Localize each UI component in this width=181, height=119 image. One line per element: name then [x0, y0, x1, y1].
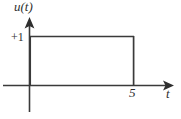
- y-axis-label: u(t): [14, 0, 33, 13]
- plot-canvas: [0, 0, 181, 119]
- x-axis-label: t: [166, 87, 170, 100]
- x-tick-label-5: 5: [129, 86, 136, 99]
- amplitude-tick-label: +1: [11, 31, 24, 43]
- unit-step-pulse-figure: u(t) +1 5 t: [0, 0, 181, 119]
